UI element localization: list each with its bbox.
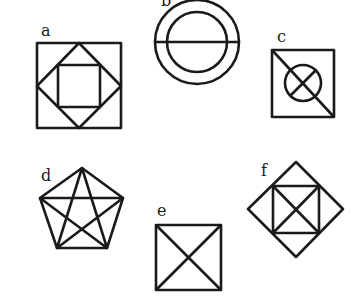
figure-d: d [40, 166, 123, 248]
outer-square [37, 43, 121, 128]
figure-e: e [156, 201, 221, 290]
figure-f: f [248, 161, 343, 257]
label-d: d [41, 166, 51, 185]
figure-b: b [155, 0, 239, 84]
label-c: c [277, 27, 286, 46]
label-a: a [41, 21, 51, 40]
diamond [37, 43, 121, 128]
figure-a: a [37, 21, 121, 128]
label-e: e [157, 201, 166, 220]
inner-square [58, 65, 100, 107]
figures-canvas: a b c d e f [0, 0, 358, 298]
figure-c: c [272, 27, 334, 117]
label-f: f [261, 161, 268, 180]
